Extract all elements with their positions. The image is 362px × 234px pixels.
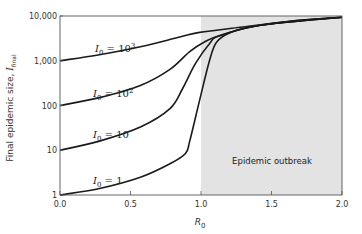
curve-label-2: I0 = 102: [92, 87, 133, 102]
y-tick-label: 1,000: [34, 57, 57, 66]
curve-labels: I0 = 1I0 = 10I0 = 102I0 = 103: [92, 42, 135, 189]
x-tick-label: 2.0: [336, 200, 349, 209]
curve-label-3: I0 = 103: [94, 42, 135, 57]
y-tick-label: 100: [42, 102, 57, 111]
x-tick-label: 1.0: [195, 200, 208, 209]
curve-label-1: I0 = 10: [92, 129, 129, 143]
y-tick-label: 1: [52, 191, 57, 200]
y-tick-label: 10,000: [29, 12, 57, 21]
x-tick-label: 1.5: [265, 200, 278, 209]
y-tick-label: 10: [47, 146, 57, 155]
x-tick-label: 0.0: [54, 200, 67, 209]
y-axis-ticks: 1101001,00010,000: [29, 12, 63, 200]
epidemic-outbreak-region: [201, 16, 342, 195]
x-tick-label: 0.5: [124, 200, 137, 209]
y-axis-title: Final epidemic size, Ifinal: [5, 54, 17, 162]
epidemic-outbreak-label: Epidemic outbreak: [232, 156, 312, 166]
epidemic-size-chart: 0.00.51.01.52.0 1101001,00010,000 I0 = 1…: [0, 0, 362, 234]
x-axis-title: R0: [195, 217, 206, 230]
